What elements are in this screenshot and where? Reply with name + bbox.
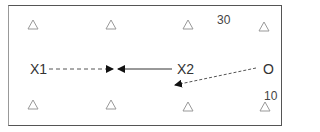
triangle-icon — [106, 100, 116, 109]
triangle-icon — [260, 102, 270, 111]
triangle-icon — [106, 20, 116, 29]
triangle-icon — [28, 100, 38, 109]
annotation-top-right: 30 — [217, 14, 230, 26]
triangle-markers-top — [28, 20, 269, 31]
node-x2-label: X2 — [177, 62, 194, 76]
triangle-icon — [183, 102, 193, 111]
node-o-label: O — [263, 62, 274, 76]
triangle-icon — [259, 22, 269, 31]
node-x1-label: X1 — [30, 62, 47, 76]
annotation-bottom-right: 10 — [264, 90, 277, 102]
triangle-markers-bottom — [28, 100, 270, 111]
triangle-icon — [183, 20, 193, 29]
triangle-icon — [28, 20, 38, 29]
